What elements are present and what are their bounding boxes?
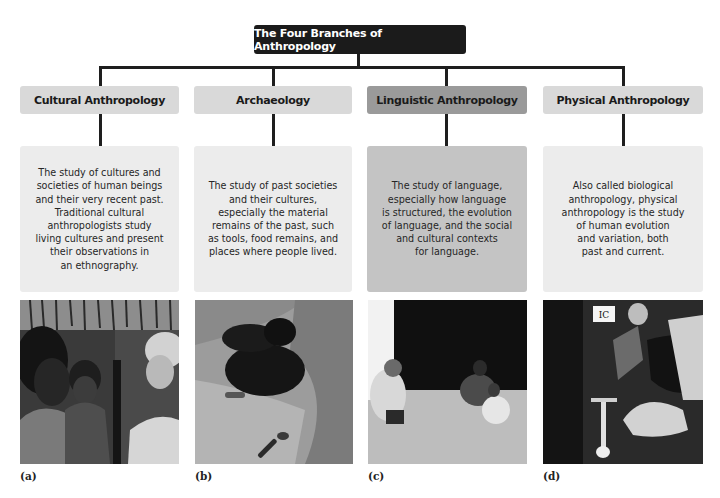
branch-header-archaeology: Archaeology	[194, 86, 352, 114]
diagram-title-text: The Four Branches of Anthropology	[254, 27, 466, 53]
branch-description-text: The study of cultures and societies of h…	[35, 166, 163, 272]
photo-archaeology	[195, 300, 353, 464]
connector-drop-physical	[622, 66, 625, 86]
caption-text: (d)	[543, 470, 560, 482]
branch-header-label: Archaeology	[236, 94, 310, 107]
skeleton-tag-label: IC	[599, 310, 610, 320]
branch-description-text: The study of past societies and their cu…	[208, 179, 338, 258]
branch-description-physical: Also called biological anthropology, phy…	[543, 146, 703, 292]
branch-description-linguistic: The study of language, especially how la…	[367, 146, 527, 292]
photo-physical-anthropology: IC	[543, 300, 703, 464]
caption-text: (a)	[20, 470, 37, 482]
connector-drop-cultural	[99, 66, 102, 86]
photo-caption-c: (c)	[368, 470, 384, 482]
photo-linguistic-anthropology	[368, 300, 527, 464]
connector-horizontal	[99, 66, 625, 69]
branch-header-physical: Physical Anthropology	[543, 86, 703, 114]
branch-header-label: Cultural Anthropology	[34, 94, 165, 107]
branch-description-archaeology: The study of past societies and their cu…	[194, 146, 352, 292]
caption-text: (b)	[195, 470, 212, 482]
branch-description-text: Also called biological anthropology, phy…	[562, 179, 685, 258]
connector-header-desc-cultural	[99, 114, 102, 146]
caption-text: (c)	[368, 470, 384, 482]
connector-drop-archaeology	[272, 66, 275, 86]
branch-header-label: Linguistic Anthropology	[376, 94, 517, 107]
connector-header-desc-physical	[622, 114, 625, 146]
branch-header-cultural: Cultural Anthropology	[20, 86, 179, 114]
connector-header-desc-archaeology	[272, 114, 275, 146]
branch-header-linguistic: Linguistic Anthropology	[367, 86, 527, 114]
photo-caption-a: (a)	[20, 470, 37, 482]
photo-caption-d: (d)	[543, 470, 560, 482]
branch-description-cultural: The study of cultures and societies of h…	[20, 146, 179, 292]
connector-drop-linguistic	[445, 66, 448, 86]
photo-caption-b: (b)	[195, 470, 212, 482]
diagram-title: The Four Branches of Anthropology	[254, 25, 466, 54]
branch-header-label: Physical Anthropology	[557, 94, 690, 107]
photo-cultural-anthropology	[20, 300, 179, 464]
branch-description-text: The study of language, especially how la…	[382, 179, 512, 258]
connector-header-desc-linguistic	[445, 114, 448, 146]
